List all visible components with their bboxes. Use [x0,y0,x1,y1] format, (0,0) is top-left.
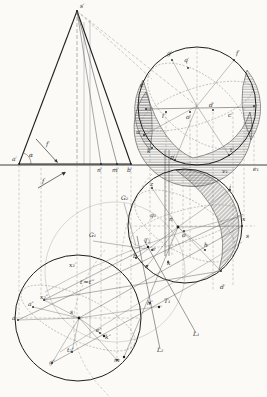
point-label: n [169,215,173,222]
geometry-figure: s′αf′a′n′m′b′fg′q′f′e′u′k′l′o′d′c′p′t′v₁… [0,0,267,397]
point-label: L₁ [192,330,199,337]
auxiliary-circle [45,202,185,342]
point-label: G₂ [121,194,129,201]
point-label: b′ [127,166,133,173]
point-label: x [242,215,246,222]
point-label: x₂′ [69,261,77,268]
point-label: g″ [49,358,56,366]
point-label: a′ [12,155,18,162]
point-label: a″ [28,300,35,307]
point-label: f′ [45,140,50,148]
ray-L1 [144,240,196,333]
point-label: t′ [230,146,234,153]
point-label: d′ [209,101,215,108]
point-label: e [152,245,156,252]
point-label: p′ [170,153,176,161]
point-label: e′ [140,81,146,88]
point-label: x₂″ [40,293,49,300]
point-label: k′ [147,147,153,154]
point-label: s [70,308,73,315]
point-label: m′ [112,166,120,173]
point-label: G₁ [89,231,96,238]
drawing-plate: s′αf′a′n′m′b′fg′q′f′e′u′k′l′o′d′c′p′t′v₁… [0,0,267,397]
point-label: b [133,252,137,259]
point-label: u′ [136,128,142,135]
point-label: s [246,232,249,239]
point-label: k [167,259,171,266]
point-label: h [204,241,208,248]
point-label: e₁ [253,165,259,172]
point-label: α [29,151,33,158]
point-label: L₂ [156,346,164,353]
point-label: z [149,180,154,187]
point-label: t₂″ [67,346,75,353]
point-label: q′ [184,56,190,64]
point-label: o [182,231,186,238]
point-label: f′ [235,49,240,57]
point-label: g₁ [150,211,156,219]
point-label: o′ [186,113,192,120]
sphere-front-view [133,47,261,187]
point-label: j [227,183,231,191]
point-label: a [12,314,16,321]
point-label: d′ [220,283,226,290]
point-label: l′ [162,112,166,119]
point-label: e″ [96,326,103,333]
point-label: k″ [105,333,112,340]
point-label: c [145,262,149,269]
point-label: m [114,356,120,363]
point-label: c′ [228,111,233,118]
point-label: g′ [167,49,173,57]
point-label: v₁ [222,167,228,174]
point-label: T₁ [164,297,170,304]
point-label: s′ [80,2,85,9]
point-label: t′=t‴ [80,278,95,285]
point-label: n′ [97,166,103,173]
labels-layer: s′αf′a′n′m′b′fg′q′f′e′u′k′l′o′d′c′p′t′v₁… [12,2,259,366]
point-label: h″ [147,299,154,306]
point-label: T₂ [144,237,151,244]
